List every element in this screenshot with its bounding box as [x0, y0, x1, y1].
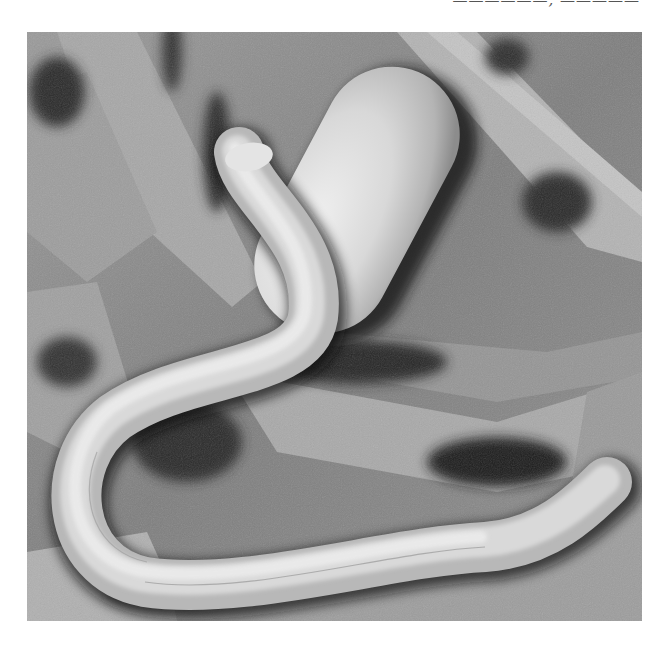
sem-photograph — [27, 32, 642, 621]
sem-scene — [27, 32, 642, 621]
clipped-caption: ——————, ————— — [360, 0, 640, 7]
clipped-caption-text: ——————, ————— — [452, 0, 640, 7]
